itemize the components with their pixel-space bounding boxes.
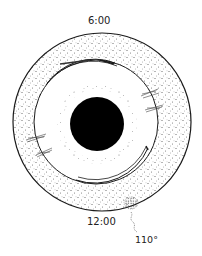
angle-label: 110° [135, 234, 158, 245]
clock-label-12: 12:00 [87, 216, 116, 227]
clock-label-6: 6:00 [88, 15, 110, 26]
eye-diagram: 6:00 12:00 110° [0, 0, 202, 256]
pupil [70, 97, 124, 151]
lesion-bottom [124, 197, 138, 209]
